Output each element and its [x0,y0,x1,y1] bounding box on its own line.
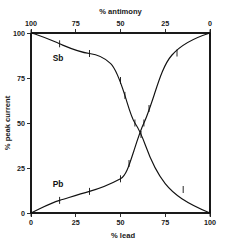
y-axis-title: % peak current [3,95,12,150]
bottom-axis-tick-labels: 0 25 50 75 100 [29,218,216,227]
top-tick-label-75: 75 [72,19,80,28]
y-tick-label-25: 25 [17,164,25,173]
y-tick-label-50: 50 [17,119,25,128]
bottom-axis-ticks [31,213,210,217]
top-tick-label-0: 0 [208,19,212,28]
y-tick-label-100: 100 [13,29,25,38]
x-tick-label-0: 0 [29,218,33,227]
x-tick-label-25: 25 [72,218,80,227]
x-tick-label-75: 75 [161,218,169,227]
left-axis-ticks [27,33,31,213]
x-axis-title: % lead [111,231,135,240]
top-axis-title: % antimony [99,7,142,16]
x-tick-label-100: 100 [204,218,216,227]
top-tick-label-50: 50 [117,19,125,28]
top-tick-label-25: 25 [161,19,169,28]
sb-series-label: Sb [53,53,64,63]
top-axis-tick-labels: 100 75 50 25 0 [25,19,212,28]
y-tick-label-0: 0 [21,209,25,218]
top-axis-ticks [31,29,210,33]
pb-series-label: Pb [53,179,64,189]
chart-screenshot: 100 75 50 25 0 % antimony 0 25 50 75 100… [0,0,226,242]
y-tick-label-75: 75 [17,74,25,83]
peak-current-vs-composition-chart: 100 75 50 25 0 % antimony 0 25 50 75 100… [0,0,226,242]
x-tick-label-50: 50 [117,218,125,227]
left-axis-tick-labels: 0 25 50 75 100 [13,29,25,218]
top-tick-label-100: 100 [25,19,37,28]
